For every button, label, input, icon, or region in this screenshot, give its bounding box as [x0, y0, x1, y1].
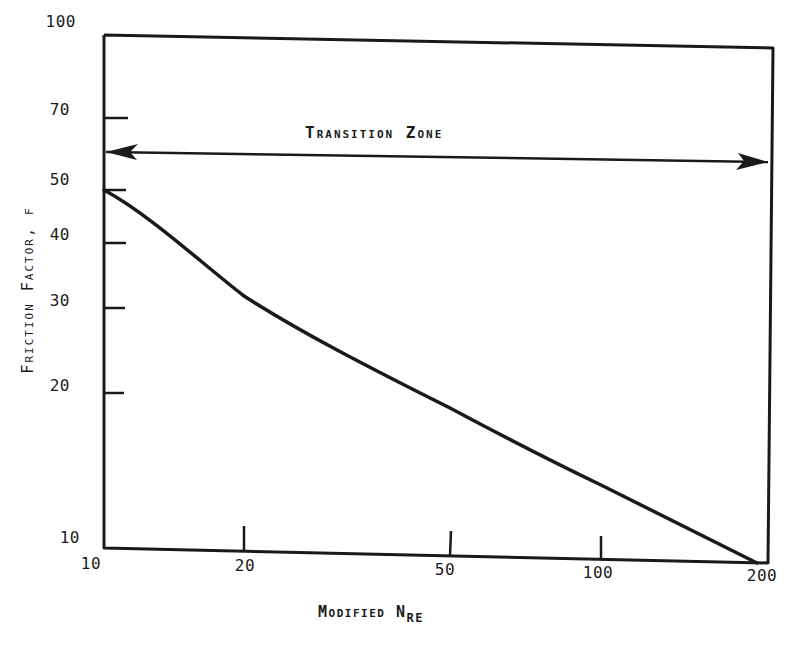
y-tick-label-20: 20: [20, 376, 70, 395]
y-tick-label-70: 70: [20, 100, 70, 119]
x-axis-label-subscript: RE: [406, 611, 423, 625]
x-axis-label-main: Modified N: [318, 603, 406, 621]
friction-factor-curve: [104, 190, 757, 563]
plot-frame: [104, 35, 773, 563]
x-axis-label: Modified NRE: [318, 603, 424, 625]
y-ticks: [104, 118, 128, 393]
x-tick-label-50: 50: [420, 560, 470, 579]
x-tick-label-200: 200: [737, 566, 787, 585]
y-axis-label: Friction Factor, f: [19, 206, 37, 373]
y-tick-label-100: 100: [26, 12, 76, 31]
transition-zone-arrow: [106, 144, 768, 170]
transition-zone-label: Transition Zone: [305, 123, 443, 142]
x-tick-label-10: 10: [66, 554, 116, 573]
y-tick-label-10: 10: [30, 528, 80, 547]
chart-canvas: [0, 0, 787, 651]
x-tick-label-20: 20: [220, 556, 270, 575]
x-tick-label-100: 100: [573, 563, 623, 582]
y-tick-label-50: 50: [20, 170, 70, 189]
